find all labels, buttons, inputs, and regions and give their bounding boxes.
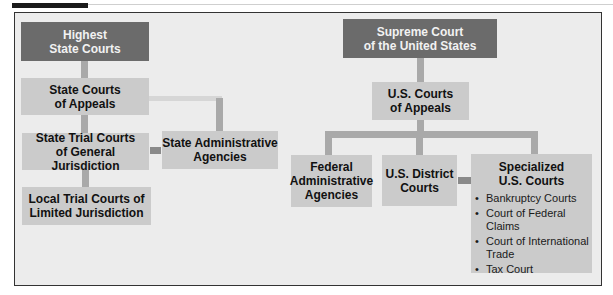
us-district-courts: U.S. District Courts	[382, 155, 457, 206]
specialized-title: Specialized U.S. Courts	[471, 160, 592, 188]
specialized-court-list: •Bankruptcy Courts •Court of Federal Cla…	[471, 192, 592, 278]
label-line: of Appeals	[55, 97, 116, 111]
connector-federal-horizontal	[325, 131, 538, 138]
item-label: Tax Court	[486, 263, 533, 275]
item-label: Court of Federal Claims	[486, 207, 565, 232]
label-line: U.S. District	[385, 167, 453, 181]
bullet-icon: •	[475, 207, 479, 220]
connector-district-to-specialized	[458, 177, 471, 184]
list-item: •Bankruptcy Courts	[475, 192, 592, 205]
header-rule-bar	[12, 3, 88, 8]
specialized-us-courts: Specialized U.S. Courts •Bankruptcy Cour…	[471, 154, 592, 273]
connector-supreme-to-appeals	[417, 58, 424, 82]
us-courts-of-appeals: U.S. Courts of Appeals	[372, 82, 469, 120]
label-line: Limited Jurisdiction	[29, 206, 143, 220]
bullet-icon: •	[475, 235, 479, 248]
supreme-court-us: Supreme Court of the United States	[343, 19, 497, 58]
label-line: U.S. Courts	[388, 87, 453, 101]
state-courts-of-appeals: State Courts of Appeals	[21, 78, 149, 115]
connector-highest-to-appeals	[81, 61, 88, 78]
label-line: U.S. Courts	[471, 174, 592, 188]
state-trial-courts-general: State Trial Courts of General Jurisdicti…	[22, 133, 149, 170]
label-line: State Courts	[49, 83, 120, 97]
highest-state-courts: Highest State Courts	[21, 22, 149, 61]
label-line: Administrative	[290, 174, 373, 188]
connector-appeals-to-admin-horizontal	[149, 96, 222, 101]
header-rule-line	[88, 4, 613, 5]
label-line: Federal	[310, 160, 353, 174]
label-line: State Trial Courts	[36, 131, 135, 145]
label-line: Highest	[63, 28, 107, 42]
label-line: Agencies	[305, 188, 358, 202]
label-line: Specialized	[471, 160, 592, 174]
label-line: Agencies	[193, 150, 246, 164]
label-line: State Courts	[49, 42, 120, 56]
item-label: Bankruptcy Courts	[486, 192, 576, 204]
connector-to-specialized	[531, 131, 538, 154]
connector-appeals-to-admin-vertical	[216, 98, 223, 131]
label-line: of the United States	[364, 39, 477, 53]
connector-to-district	[416, 131, 423, 155]
bullet-icon: •	[475, 192, 479, 205]
label-line: Supreme Court	[377, 25, 464, 39]
federal-administrative-agencies: Federal Administrative Agencies	[291, 155, 372, 207]
list-item: •Tax Court	[475, 263, 592, 276]
label-line: of Appeals	[390, 101, 451, 115]
connector-trial-to-local	[82, 170, 89, 187]
label-line: State Administrative	[162, 136, 278, 150]
connector-trial-to-admin	[150, 147, 161, 154]
label-line: Local Trial Courts of	[28, 192, 144, 206]
connector-to-federal-admin	[325, 131, 332, 155]
label-line: of General Jurisdiction	[22, 145, 149, 173]
list-item: •Court of International Trade	[475, 235, 592, 261]
state-administrative-agencies: State Administrative Agencies	[162, 131, 278, 169]
item-label: Court of International Trade	[486, 235, 589, 260]
list-item: •Court of Federal Claims	[475, 207, 592, 233]
label-line: Courts	[400, 181, 439, 195]
local-trial-courts-limited: Local Trial Courts of Limited Jurisdicti…	[22, 187, 151, 225]
bullet-icon: •	[475, 263, 479, 276]
